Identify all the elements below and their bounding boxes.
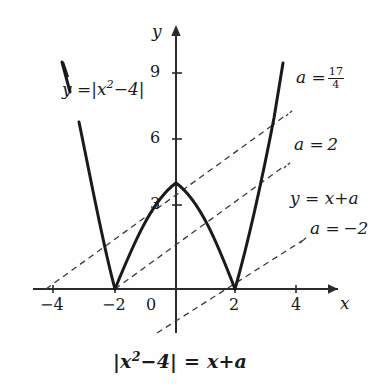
line-label-a-minus-2: a = −2	[310, 220, 368, 237]
math-figure: y x 3 6 9 −4 −2 0 2 4 y =|x2−4| a =174 a…	[0, 0, 381, 388]
x-tick-2: 2	[229, 297, 239, 313]
y-tick-6: 6	[150, 130, 160, 146]
y-tick-3: 3	[150, 196, 160, 212]
x-tick-4: 4	[291, 297, 301, 313]
line-label-a-17-4-lhs: a =	[296, 67, 326, 87]
line-label-a-17-4: a =174	[296, 66, 344, 91]
line-label-a-minus-2-rhs: −2	[343, 218, 368, 238]
y-tick-9: 9	[150, 64, 160, 80]
label-pointers	[284, 110, 307, 243]
line-label-a-minus-2-lhs: a =	[310, 218, 340, 238]
line-label-a-2: a = 2	[294, 136, 338, 153]
line-label-a-2-lhs: a =	[294, 134, 324, 154]
curve-label-exponent: 2	[107, 78, 114, 91]
figure-caption: |x2−4| = x+a	[113, 352, 247, 371]
caption-post: −4| = x+a	[141, 350, 248, 372]
fraction-17-over-4: 174	[328, 66, 344, 91]
caption-pre: |x	[113, 350, 132, 372]
x-tick-0: 0	[146, 297, 156, 313]
x-tick-minus-4: −4	[40, 297, 64, 313]
x-axis-label: x	[340, 295, 350, 312]
line-a-minus-2	[157, 239, 305, 333]
line-label-a-2-rhs: 2	[327, 134, 338, 154]
curve-label-pre: y =|x	[62, 79, 107, 99]
y-axis-label: y	[152, 23, 162, 40]
fraction-numerator: 17	[328, 66, 344, 78]
line-a-2	[115, 167, 283, 289]
curve-label-post: −4|	[114, 79, 145, 99]
x-tick-minus-2: −2	[102, 297, 126, 313]
caption-exponent: 2	[132, 349, 141, 364]
y-axis	[171, 25, 180, 333]
curve-label: y =|x2−4|	[62, 81, 145, 98]
x-axis	[33, 284, 338, 293]
fraction-denominator: 4	[328, 78, 344, 91]
line-family-label: y = x+a	[290, 190, 359, 207]
